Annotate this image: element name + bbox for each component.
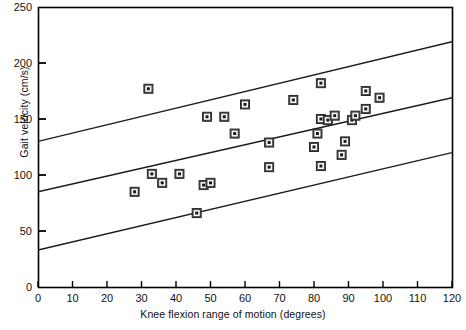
marker-core bbox=[344, 140, 347, 143]
marker-core bbox=[313, 146, 316, 149]
data-point bbox=[289, 95, 298, 104]
regression-line bbox=[38, 98, 452, 192]
marker-core bbox=[340, 153, 343, 156]
marker-core bbox=[268, 141, 271, 144]
marker-core bbox=[233, 132, 236, 135]
data-point bbox=[361, 87, 370, 96]
data-point bbox=[341, 137, 350, 146]
data-point bbox=[337, 150, 346, 159]
x-tick-label: 50 bbox=[204, 292, 216, 304]
data-point bbox=[220, 112, 229, 121]
y-tick-label: 0 bbox=[2, 281, 32, 293]
marker-core bbox=[333, 114, 336, 117]
x-tick-label: 30 bbox=[135, 292, 147, 304]
marker-core bbox=[319, 165, 322, 168]
upper-prediction-limit bbox=[38, 42, 452, 142]
x-tick-label: 110 bbox=[409, 292, 427, 304]
marker-core bbox=[150, 172, 153, 175]
marker-core bbox=[223, 115, 226, 118]
data-point bbox=[192, 209, 201, 218]
data-point bbox=[265, 163, 274, 172]
marker-core bbox=[364, 107, 367, 110]
data-point bbox=[158, 178, 167, 187]
data-point bbox=[316, 162, 325, 171]
x-tick-label: 70 bbox=[273, 292, 285, 304]
data-point bbox=[203, 112, 212, 121]
data-point bbox=[330, 111, 339, 120]
data-point bbox=[361, 104, 370, 113]
data-point bbox=[206, 178, 215, 187]
y-tick-label: 150 bbox=[2, 113, 32, 125]
marker-core bbox=[319, 118, 322, 121]
data-point bbox=[375, 93, 384, 102]
data-point bbox=[147, 169, 156, 178]
y-tick-label: 100 bbox=[2, 169, 32, 181]
x-axis-label: Knee flexion range of motion (degrees) bbox=[0, 308, 466, 320]
marker-core bbox=[133, 190, 136, 193]
x-tick-label: 120 bbox=[443, 292, 461, 304]
marker-core bbox=[202, 184, 205, 187]
y-tick-label: 50 bbox=[2, 225, 32, 237]
data-point bbox=[130, 187, 139, 196]
y-tick-label: 250 bbox=[2, 1, 32, 13]
marker-core bbox=[268, 166, 271, 169]
trend-lines bbox=[38, 42, 452, 250]
data-point bbox=[265, 138, 274, 147]
marker-core bbox=[161, 181, 164, 184]
marker-core bbox=[244, 103, 247, 106]
x-tick-label: 20 bbox=[101, 292, 113, 304]
marker-core bbox=[354, 114, 357, 117]
x-tick-label: 100 bbox=[374, 292, 392, 304]
x-tick-label: 80 bbox=[308, 292, 320, 304]
x-tick-label: 60 bbox=[239, 292, 251, 304]
data-point bbox=[310, 143, 319, 152]
data-point bbox=[313, 129, 322, 138]
y-tick-label: 200 bbox=[2, 57, 32, 69]
data-point bbox=[351, 111, 360, 120]
data-point bbox=[241, 100, 250, 109]
lower-prediction-limit bbox=[38, 153, 452, 250]
plot-frame bbox=[39, 8, 453, 288]
marker-core bbox=[292, 98, 295, 101]
marker-core bbox=[209, 181, 212, 184]
data-point bbox=[175, 169, 184, 178]
marker-core bbox=[206, 115, 209, 118]
marker-core bbox=[378, 96, 381, 99]
marker-core bbox=[147, 87, 150, 90]
marker-core bbox=[364, 90, 367, 93]
x-tick-label: 10 bbox=[66, 292, 78, 304]
x-tick-label: 40 bbox=[170, 292, 182, 304]
plot-canvas bbox=[0, 0, 466, 330]
marker-core bbox=[316, 132, 319, 135]
data-point bbox=[230, 129, 239, 138]
marker-core bbox=[326, 119, 329, 122]
marker-core bbox=[319, 82, 322, 85]
marker-core bbox=[178, 172, 181, 175]
scatter-plot: Gait velocity (cm/s) Knee flexion range … bbox=[0, 0, 466, 330]
data-point bbox=[144, 84, 153, 93]
data-points bbox=[130, 79, 384, 218]
data-point bbox=[316, 79, 325, 88]
y-axis-label: Gait velocity (cm/s) bbox=[18, 52, 30, 172]
x-tick-label: 0 bbox=[35, 292, 41, 304]
marker-core bbox=[195, 212, 198, 215]
x-tick-label: 90 bbox=[342, 292, 354, 304]
